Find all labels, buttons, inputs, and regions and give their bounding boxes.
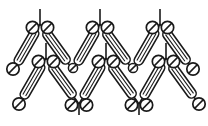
circular-node <box>193 98 205 110</box>
circular-node <box>80 99 92 111</box>
circular-node <box>41 21 53 33</box>
circular-node <box>161 21 173 33</box>
circular-node <box>125 99 137 111</box>
circular-node <box>140 99 152 111</box>
circular-node <box>107 55 119 67</box>
circular-node <box>7 63 19 75</box>
circular-node <box>13 98 25 110</box>
circular-node <box>32 55 44 67</box>
zigzag-network-diagram <box>0 0 208 126</box>
circular-node <box>146 21 158 33</box>
circular-node <box>92 55 104 67</box>
circular-node <box>26 21 38 33</box>
circular-node <box>86 21 98 33</box>
circular-node <box>128 63 137 72</box>
circular-node <box>152 55 164 67</box>
figure-root: Zigzag rod-and-node chain network Two in… <box>0 0 208 126</box>
circular-node <box>65 99 77 111</box>
circular-node <box>187 63 199 75</box>
circular-node <box>68 63 77 72</box>
circular-node <box>47 55 59 67</box>
circular-node <box>101 21 113 33</box>
circular-node <box>167 55 179 67</box>
